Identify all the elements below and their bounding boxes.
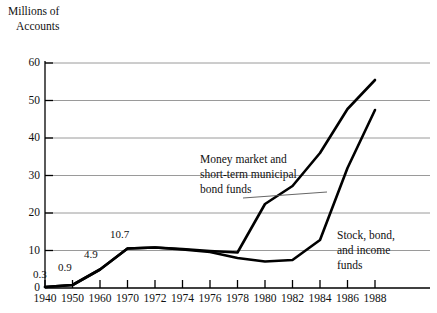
annotation-stock-bond-income-line-1: Stock, bond,: [337, 228, 395, 243]
chart-figure: Millions of Accounts: [0, 0, 437, 313]
annotation-money-market: Money market and short-term municipal bo…: [200, 152, 297, 197]
y-tick-label-20: 20: [18, 206, 40, 218]
y-tick-marks: [45, 63, 53, 251]
annotation-money-market-line-3: bond funds: [200, 182, 297, 197]
annotation-stock-bond-income-line-3: funds: [337, 258, 395, 273]
y-tick-label-40: 40: [18, 131, 40, 143]
data-label-1970: 10.7: [110, 228, 129, 240]
y-tick-label-10: 10: [18, 244, 40, 256]
annotation-stock-bond-income: Stock, bond, and income funds: [337, 228, 395, 273]
y-tick-label-50: 50: [18, 94, 40, 106]
series-line-stock-bond-income: [45, 110, 375, 287]
data-label-1950: 0.9: [58, 261, 72, 273]
annotation-stock-bond-income-line-2: and income: [337, 243, 395, 258]
annotation-money-market-line-2: short-term municipal: [200, 167, 297, 182]
data-label-1960: 4.9: [84, 248, 98, 260]
x-tick-marks: [45, 280, 375, 288]
y-tick-label-60: 60: [18, 56, 40, 68]
x-tick-label-1988: 1988: [355, 292, 395, 304]
y-tick-label-30: 30: [18, 169, 40, 181]
annotation-money-market-line-1: Money market and: [200, 152, 297, 167]
data-label-1940: 0.3: [33, 268, 47, 280]
